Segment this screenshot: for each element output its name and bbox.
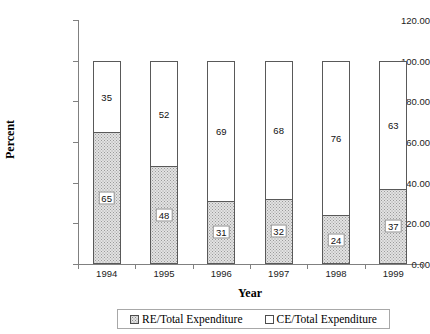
bar-segment-re[interactable]: 31 [207,201,235,264]
y-tick-mark [73,142,78,143]
y-axis-line [78,20,79,265]
bar-value-label-ce: 35 [101,91,112,102]
bar-value-label-ce: 52 [159,109,170,120]
x-tick-label: 1998 [307,268,364,279]
bar-segment-ce[interactable]: 35 [93,61,121,133]
bar-segment-re[interactable]: 65 [93,132,121,264]
legend-item-re[interactable]: RE/Total Expenditure [130,313,242,325]
chart-legend: RE/Total Expenditure CE/Total Expenditur… [117,309,390,329]
bar-segment-ce[interactable]: 69 [207,61,235,202]
bar-value-label-ce: 76 [331,133,342,144]
bar-segment-re[interactable]: 32 [265,199,293,264]
bar-value-label-ce: 68 [273,125,284,136]
y-tick-mark [73,223,78,224]
bar-value-label-ce: 69 [216,126,227,137]
x-tick-label: 1995 [135,268,192,279]
x-tick-mark [422,264,423,269]
bar-group: 6832 [265,20,293,264]
bar-value-label-re: 48 [156,209,173,222]
bar-value-label-re: 37 [385,220,402,233]
bar-value-label-re: 65 [98,191,115,204]
y-tick-mark [73,101,78,102]
bar-segment-re[interactable]: 37 [379,189,407,264]
x-tick-label: 1994 [78,268,135,279]
bar-group: 6931 [207,20,235,264]
x-tick-label: 1999 [365,268,422,279]
y-axis-title: Percent [0,104,20,174]
legend-item-ce[interactable]: CE/Total Expenditure [265,313,377,325]
bar-value-label-re: 32 [270,225,287,238]
legend-label-ce: CE/Total Expenditure [277,313,377,325]
bar-segment-ce[interactable]: 68 [265,61,293,200]
y-tick-mark [73,183,78,184]
bar-group: 3565 [93,20,121,264]
bar-value-label-re: 31 [213,226,230,239]
bar-segment-ce[interactable]: 63 [379,61,407,190]
x-axis-title: Year [78,286,422,301]
bar-segment-ce[interactable]: 76 [322,61,350,217]
bar-group: 6337 [379,20,407,264]
y-tick-mark [73,20,78,21]
bar-group: 5248 [150,20,178,264]
bar-group: 7624 [322,20,350,264]
bar-segment-re[interactable]: 24 [322,215,350,264]
bar-segment-re[interactable]: 48 [150,166,178,264]
bar-segment-ce[interactable]: 52 [150,61,178,168]
legend-label-re: RE/Total Expenditure [142,313,242,325]
stacked-bar-chart: Percent 0.0020.0040.0060.0080.00100.0012… [0,0,430,334]
legend-swatch-re-icon [130,315,139,324]
y-tick-mark [73,61,78,62]
legend-swatch-ce-icon [265,315,274,324]
x-tick-label: 1996 [193,268,250,279]
x-tick-label: 1997 [250,268,307,279]
bar-value-label-ce: 63 [388,120,399,131]
bar-value-label-re: 24 [328,233,345,246]
